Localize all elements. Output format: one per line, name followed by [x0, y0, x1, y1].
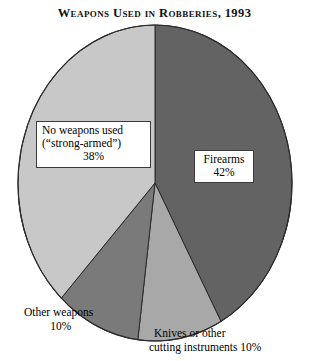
slice-label-no-weapons-percent: 38% [42, 150, 145, 163]
slice-label-knives-line2: cutting instruments 10% [149, 341, 261, 355]
slice-label-firearms-percent: 42% [213, 166, 234, 178]
slice-label-other-weapons: Other weapons 10% [24, 306, 93, 333]
slice-label-firearms-line1: Firearms [204, 153, 245, 165]
slice-label-no-weapons-line2: (“strong-armed”) [42, 137, 121, 149]
slice-label-other-weapons-percent: 10% [24, 320, 93, 334]
slice-label-other-weapons-line1: Other weapons [24, 306, 93, 318]
slice-label-no-weapons: No weapons used (“strong-armed”) 38% [36, 121, 151, 168]
pie-chart-figure: Weapons Used in Robberies, 1993 No weapo… [0, 0, 309, 361]
slice-label-knives-line1: Knives or other [149, 327, 261, 341]
slice-label-no-weapons-line1: No weapons used [42, 124, 123, 136]
slice-label-knives: Knives or other cutting instruments 10% [149, 327, 261, 354]
slice-label-firearms: Firearms 42% [194, 150, 254, 183]
